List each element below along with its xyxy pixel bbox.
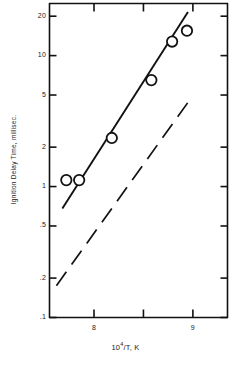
x-tick-label: 9	[183, 324, 203, 331]
data-point-marker	[74, 175, 84, 185]
x-axis-title: 104/T, K	[0, 341, 251, 352]
data-point-marker	[167, 36, 177, 46]
data-point-marker	[182, 25, 192, 35]
y-tick-label: 20	[24, 12, 46, 19]
y-tick-label: .1	[24, 313, 46, 320]
y-axis-title: Ignition Delay Time, millisec.	[10, 100, 17, 220]
x-tick-label: 8	[84, 324, 104, 331]
data-point-marker	[146, 75, 156, 85]
y-tick-label: 2	[24, 143, 46, 150]
data-point-marker	[61, 175, 71, 185]
y-tick-label: 1	[24, 182, 46, 189]
data-point-marker	[107, 133, 117, 143]
x-axis-title-rest: /T, K	[124, 343, 140, 352]
y-tick-label: .5	[24, 221, 46, 228]
y-tick-label: .2	[24, 274, 46, 281]
y-tick-label: 10	[24, 51, 46, 58]
x-axis-title-base: 10	[111, 343, 120, 352]
y-tick-label: 5	[24, 91, 46, 98]
